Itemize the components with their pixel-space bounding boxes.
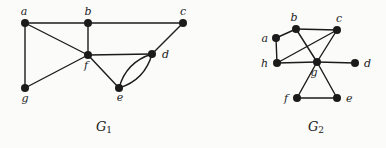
- graphs-svg: abcfdegabchgdfe: [0, 0, 386, 148]
- edge-f-d-g1: [88, 54, 152, 55]
- figure-canvas: abcfdegabchgdfe G1 G2: [0, 0, 386, 148]
- vertex-label-g-g1: g: [21, 92, 28, 105]
- vertex-b-g1: [84, 19, 92, 27]
- vertex-label-f-g1: f: [83, 59, 90, 72]
- caption-g2-subscript: 2: [318, 125, 324, 135]
- vertex-label-a-g1: a: [21, 5, 28, 18]
- vertex-label-h-g2: h: [261, 57, 268, 70]
- vertex-label-g-g2: g: [310, 66, 317, 79]
- vertex-label-b-g2: b: [290, 11, 297, 24]
- vertex-a-g1: [21, 19, 29, 27]
- caption-g1-subscript: 1: [106, 125, 112, 135]
- vertex-d-g2: [351, 59, 359, 67]
- caption-g2-symbol: G: [308, 119, 318, 134]
- vertex-label-d-g2: d: [364, 57, 371, 70]
- edge-b-c-g2: [296, 29, 337, 30]
- vertex-label-a-g2: a: [261, 32, 268, 45]
- edge-h-g-g2: [277, 62, 317, 63]
- edge-g-f-g1: [25, 55, 88, 88]
- vertex-b-g2: [292, 25, 300, 33]
- caption-g1-symbol: G: [96, 119, 106, 134]
- edge-f-e-g1: [88, 55, 119, 88]
- caption-g1: G1: [96, 120, 112, 135]
- vertex-g-g2: [313, 58, 321, 66]
- vertex-label-b-g1: b: [84, 5, 91, 18]
- vertex-e-g2: [333, 94, 341, 102]
- vertex-f-g1: [84, 51, 92, 59]
- vertex-f-g2: [293, 94, 301, 102]
- vertex-c-g2: [333, 26, 341, 34]
- vertex-h-g2: [273, 59, 281, 67]
- vertex-c-g1: [179, 19, 187, 27]
- vertex-label-e-g2: e: [346, 92, 353, 105]
- vertex-g-g1: [21, 84, 29, 92]
- edge-b-g-g2: [296, 29, 317, 62]
- vertex-d-g1: [148, 50, 156, 58]
- vertex-label-c-g1: c: [180, 5, 186, 18]
- caption-g2: G2: [308, 120, 324, 135]
- edge-e-d-g1: [119, 54, 152, 88]
- edge-g-d-g2: [317, 62, 355, 63]
- vertex-label-f-g2: f: [283, 92, 290, 105]
- vertex-a-g2: [272, 34, 280, 42]
- edge-e-d-g1: [119, 54, 152, 88]
- edge-g-e-g2: [317, 62, 337, 98]
- vertex-label-e-g1: e: [117, 91, 124, 104]
- vertex-label-d-g1: d: [162, 48, 169, 61]
- edge-c-h-g2: [277, 30, 337, 63]
- vertex-label-c-g2: c: [336, 12, 342, 25]
- edge-a-f-g1: [25, 23, 88, 55]
